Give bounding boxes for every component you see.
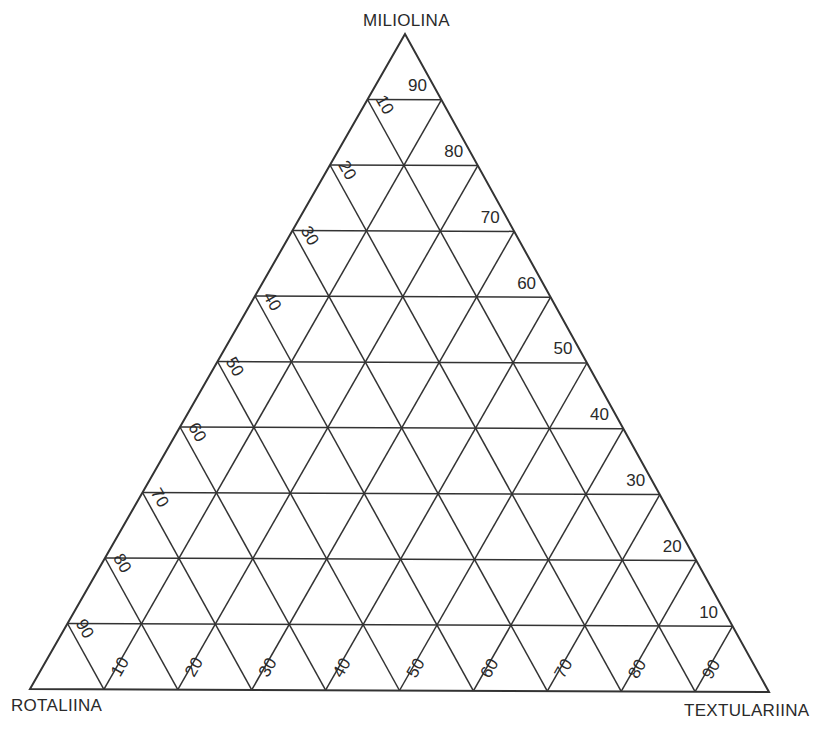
grid-line-rotaliina	[218, 362, 400, 691]
miliolina-tick-label: 60	[517, 274, 536, 293]
miliolina-tick-label: 10	[699, 603, 718, 622]
grid-lines	[68, 100, 733, 692]
grid-line-miliolina	[218, 362, 588, 364]
grid-line-miliolina	[68, 624, 733, 627]
grid-line-textulariina	[104, 100, 442, 690]
miliolina-tick-label: 20	[663, 537, 682, 556]
ternary-grid: 908070605040302010 102030405060708090 10…	[0, 0, 826, 734]
miliolina-scale-labels: 908070605040302010	[408, 76, 718, 621]
grid-line-miliolina	[255, 296, 551, 297]
grid-line-textulariina	[252, 231, 515, 690]
grid-line-textulariina	[400, 363, 588, 691]
miliolina-tick-label: 80	[444, 142, 463, 161]
grid-line-miliolina	[180, 427, 623, 429]
triangle-outline	[30, 34, 769, 692]
miliolina-tick-label: 70	[481, 208, 500, 227]
textulariina-scale-labels: 102030405060708090	[107, 654, 724, 682]
vertex-label-textulariina: TEXTULARIINA	[684, 701, 809, 721]
miliolina-tick-label: 90	[408, 76, 427, 95]
grid-line-miliolina	[143, 493, 660, 495]
miliolina-tick-label: 40	[590, 405, 609, 424]
vertex-label-miliolina: MILIOLINA	[363, 11, 450, 31]
miliolina-tick-label: 50	[554, 339, 573, 358]
vertex-label-rotaliina: ROTALIINA	[11, 696, 102, 716]
grid-line-rotaliina	[293, 231, 548, 692]
grid-line-rotaliina	[368, 100, 696, 692]
miliolina-tick-label: 30	[626, 471, 645, 490]
grid-line-miliolina	[293, 231, 515, 232]
